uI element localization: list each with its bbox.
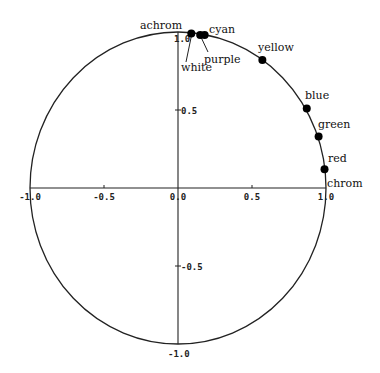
y-tick-label: 0.5 bbox=[181, 106, 197, 116]
x-tick-label: -0.5 bbox=[93, 192, 115, 202]
point-label-blue: blue bbox=[305, 89, 329, 102]
point-red bbox=[321, 165, 329, 173]
point-label-cyan: cyan bbox=[209, 23, 235, 36]
point-white bbox=[187, 30, 195, 38]
data-points: whitepurplecyanyellowbluegreenred bbox=[181, 23, 350, 173]
point-label-red: red bbox=[328, 152, 347, 165]
point-label-yellow: yellow bbox=[257, 41, 294, 54]
point-yellow bbox=[258, 56, 266, 64]
y-tick-label: -0.5 bbox=[181, 262, 203, 272]
point-cyan bbox=[201, 31, 209, 39]
chrom-axis-label: chrom bbox=[327, 177, 363, 190]
x-tick-label: -1.0 bbox=[19, 192, 41, 202]
x-tick-label: 1.0 bbox=[318, 192, 334, 202]
y-tick-label: -1.0 bbox=[168, 349, 190, 359]
achrom-axis-label: achrom bbox=[140, 19, 183, 32]
chart-canvas: chromachrom -1.0-0.50.00.51.01.00.5-0.5-… bbox=[0, 0, 380, 373]
point-blue bbox=[303, 104, 311, 112]
x-tick-label: 0.5 bbox=[244, 192, 260, 202]
point-label-purple: purple bbox=[204, 53, 240, 66]
point-label-green: green bbox=[318, 118, 350, 131]
point-green bbox=[315, 133, 323, 141]
x-tick-label: 0.0 bbox=[170, 192, 186, 202]
unit-circle-chart: chromachrom -1.0-0.50.00.51.01.00.5-0.5-… bbox=[0, 0, 380, 373]
